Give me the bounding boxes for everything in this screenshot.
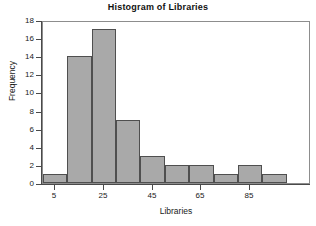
plot-area <box>42 21 310 184</box>
x-axis-tick-label: 65 <box>188 192 212 200</box>
histogram-bar <box>262 174 286 183</box>
histogram-figure: Histogram of Libraries Frequency 0246810… <box>0 0 316 226</box>
y-axis-tick-label: 2 <box>30 162 34 170</box>
histogram-bar <box>116 120 140 183</box>
y-axis-tick-label: 10 <box>25 89 34 97</box>
histogram-bar <box>140 156 164 183</box>
x-axis-tick <box>152 185 153 190</box>
x-axis-label: Libraries <box>42 206 310 216</box>
histogram-bar <box>214 174 238 183</box>
y-axis-tick-label: 0 <box>30 180 34 188</box>
histogram-bar <box>43 174 67 183</box>
x-axis-tick-label: 45 <box>140 192 164 200</box>
x-axis-tick <box>249 185 250 190</box>
histogram-bar <box>189 165 213 183</box>
histogram-bar <box>165 165 189 183</box>
chart-title: Histogram of Libraries <box>0 2 316 12</box>
histogram-bar <box>67 56 91 183</box>
x-axis-tick <box>103 185 104 190</box>
x-axis-tick <box>54 185 55 190</box>
y-axis-tick-label: 12 <box>25 71 34 79</box>
y-axis-tick-label: 6 <box>30 126 34 134</box>
histogram-bar <box>92 29 116 183</box>
x-axis-tick-label: 25 <box>91 192 115 200</box>
y-axis-tick-label: 14 <box>25 53 34 61</box>
y-axis-tick-label: 8 <box>30 108 34 116</box>
y-axis-label: Frequency <box>7 43 17 119</box>
x-axis-tick-label: 85 <box>237 192 261 200</box>
y-axis-tick-label: 4 <box>30 144 34 152</box>
x-axis-tick-label: 5 <box>42 192 66 200</box>
histogram-bars <box>43 22 309 183</box>
y-axis-tick-label: 16 <box>25 35 34 43</box>
x-axis-line <box>42 184 310 185</box>
x-axis-tick <box>200 185 201 190</box>
histogram-bar <box>238 165 262 183</box>
y-axis-tick <box>36 184 42 185</box>
y-axis-tick-label: 18 <box>25 17 34 25</box>
